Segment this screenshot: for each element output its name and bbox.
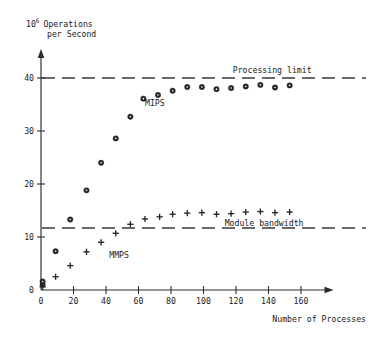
data-point-mips [258, 82, 263, 87]
x-axis-tick-label: 60 [134, 296, 144, 306]
data-point-mips [128, 114, 133, 119]
y-axis-title: 106Operationsper Second [26, 17, 96, 39]
data-point-mmps [228, 211, 234, 217]
data-point-mips [113, 136, 118, 141]
y-axis-tick-label: 10 [24, 232, 34, 242]
marker-circle-center [260, 84, 262, 86]
data-point-mmps [287, 209, 293, 215]
data-point-mips [155, 92, 160, 97]
marker-circle-center [69, 219, 71, 221]
data-point-mmps [127, 221, 133, 227]
data-point-mmps [243, 209, 249, 215]
data-point-mmps [257, 208, 263, 214]
series-mips: MIPS [40, 82, 292, 287]
marker-circle-center [100, 162, 102, 164]
marker-circle-center [245, 86, 247, 88]
operations-per-second-scatter-chart: 020406080100120140160102030400 Processin… [0, 0, 384, 339]
x-axis-arrow [325, 287, 334, 294]
marker-circle-center [55, 251, 57, 253]
reference-lines: Processing limitModule bandwidth [42, 65, 366, 228]
data-point-mips [40, 279, 45, 284]
data-point-mmps [98, 239, 104, 245]
data-point-mmps [83, 249, 89, 255]
data-point-mmps [113, 230, 119, 236]
marker-circle-center [86, 190, 88, 192]
x-axis-title: Number of Processes [272, 314, 366, 324]
reference-line-label-processing-limit: Processing limit [233, 65, 312, 75]
data-point-mips [287, 83, 292, 88]
x-axis-tick-label: 20 [69, 296, 79, 306]
marker-circle-center [186, 86, 188, 88]
marker-circle-center [143, 98, 145, 100]
data-point-mips [214, 86, 219, 91]
x-axis-tick-label: 0 [39, 296, 44, 306]
data-point-mips [53, 249, 58, 254]
data-point-mips [199, 84, 204, 89]
marker-circle-center [172, 90, 174, 92]
data-point-mmps [67, 263, 73, 269]
data-point-mmps [184, 210, 190, 216]
y-axis-tick-label: 20 [24, 179, 34, 189]
data-point-mmps [213, 211, 219, 217]
marker-circle-center [115, 138, 117, 140]
marker-circle-center [42, 281, 44, 283]
data-point-mips [185, 84, 190, 89]
series-label-mmps: MMPS [109, 250, 129, 260]
data-point-mips [243, 84, 248, 89]
data-point-mips [170, 88, 175, 93]
data-point-mmps [199, 210, 205, 216]
marker-circle-center [201, 86, 203, 88]
x-axis-tick-label: 40 [101, 296, 111, 306]
x-axis-tick-label: 120 [229, 296, 244, 306]
data-point-mips [68, 217, 73, 222]
data-point-mmps [272, 210, 278, 216]
x-axis-tick-label: 100 [196, 296, 211, 306]
marker-circle-center [289, 85, 291, 87]
y-axis-tick-label: 0 [29, 285, 34, 295]
data-point-mmps [53, 274, 59, 280]
data-point-mmps [170, 211, 176, 217]
data-point-mips [228, 85, 233, 90]
marker-circle-center [230, 87, 232, 89]
data-point-mmps [157, 214, 163, 220]
x-axis-tick-label: 140 [261, 296, 276, 306]
data-series: MIPSMMPS [40, 82, 293, 290]
series-label-mips: MIPS [145, 98, 165, 108]
reference-line-label-module-bandwidth: Module bandwidth [225, 218, 304, 228]
data-point-mips [98, 160, 103, 165]
marker-circle-center [130, 116, 132, 118]
chart-labels: 106Operationsper SecondNumber of Process… [26, 17, 366, 324]
y-axis-tick-label: 40 [24, 73, 34, 83]
y-axis-tick-label: 30 [24, 126, 34, 136]
data-point-mips [84, 188, 89, 193]
marker-circle-center [157, 94, 159, 96]
data-point-mips [272, 85, 277, 90]
x-axis-tick-label: 80 [166, 296, 176, 306]
x-axis-tick-label: 160 [294, 296, 309, 306]
y-axis-arrow [38, 49, 45, 58]
chart-container: 020406080100120140160102030400 Processin… [0, 0, 384, 339]
data-point-mmps [142, 216, 148, 222]
marker-circle-center [216, 88, 218, 90]
marker-circle-center [274, 87, 276, 89]
